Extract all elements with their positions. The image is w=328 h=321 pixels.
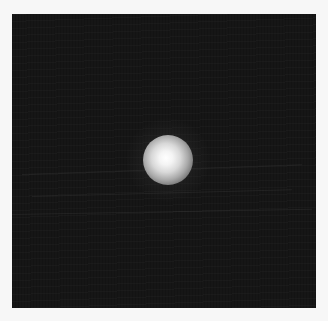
dark-image-frame bbox=[12, 14, 316, 308]
bright-spot bbox=[143, 135, 193, 185]
